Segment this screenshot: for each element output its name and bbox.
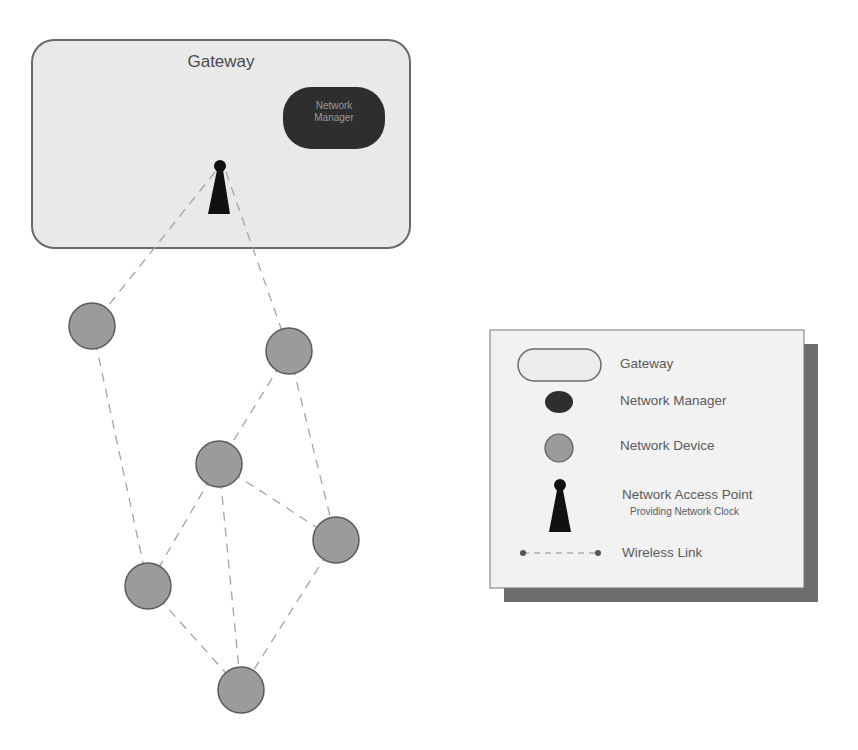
legend-label-network-manager: Network Manager: [620, 393, 727, 408]
network-device-n2: [266, 328, 312, 374]
legend-gateway-icon: [518, 349, 601, 381]
link-n3-n6: [219, 464, 241, 690]
network-device-n6: [218, 667, 264, 713]
network-devices: [69, 303, 359, 713]
gateway-title: Gateway: [32, 52, 410, 72]
legend-network-manager-icon: [545, 391, 573, 413]
network-device-n4: [313, 517, 359, 563]
legend-label-gateway: Gateway: [620, 356, 673, 371]
legend-sublabel-access-point: Providing Network Clock: [630, 506, 739, 517]
network-manager-label: Network Manager: [283, 100, 385, 124]
wireless-links: [92, 172, 336, 690]
network-diagram: [0, 0, 858, 750]
legend-label-network-device: Network Device: [620, 438, 715, 453]
link-n4-n6: [241, 540, 336, 690]
network-manager-label-line1: Network: [283, 100, 385, 112]
legend-label-wireless-link: Wireless Link: [622, 545, 702, 560]
legend-label-access-point: Network Access Point: [622, 487, 753, 502]
legend-network-device-icon: [545, 434, 573, 462]
link-n2-n4: [289, 351, 336, 540]
network-device-n1: [69, 303, 115, 349]
network-device-n3: [196, 441, 242, 487]
network-manager-label-line2: Manager: [283, 112, 385, 124]
network-device-n5: [125, 563, 171, 609]
link-n1-n5: [92, 326, 148, 586]
